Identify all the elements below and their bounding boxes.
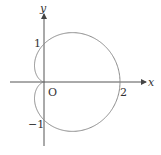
tick-label-x-2: 2 xyxy=(120,86,127,99)
cardioid-diagram: y x O 2 1 −1 xyxy=(0,0,161,155)
tick-label-y-neg1: −1 xyxy=(28,118,44,131)
origin-label: O xyxy=(48,86,57,99)
x-axis-label: x xyxy=(148,76,155,89)
tick-label-y-1: 1 xyxy=(34,37,41,50)
y-axis-label: y xyxy=(39,2,47,15)
